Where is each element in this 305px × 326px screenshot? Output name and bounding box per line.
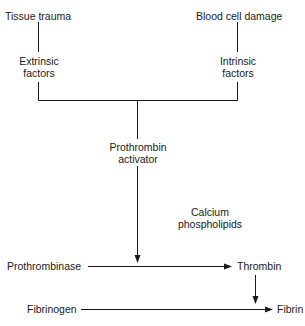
activator-line-1: Prothrombin — [102, 141, 174, 153]
node-extrinsic-factors: Extrinsic factors — [15, 55, 63, 79]
node-blood-cell-damage: Blood cell damage — [196, 10, 282, 22]
intrinsic-line-2: factors — [214, 67, 262, 79]
node-tissue-trauma: Tissue trauma — [5, 10, 71, 22]
calcium-line-1: Calcium — [170, 206, 250, 218]
node-fibrin: Fibrin — [277, 303, 303, 315]
node-thrombin: Thrombin — [237, 260, 281, 272]
node-prothrombin-activator: Prothrombin activator — [102, 141, 174, 165]
extrinsic-line-2: factors — [15, 67, 63, 79]
node-fibrinogen: Fibrinogen — [27, 303, 77, 315]
calcium-line-2: phospholipids — [170, 218, 250, 230]
node-intrinsic-factors: Intrinsic factors — [214, 55, 262, 79]
activator-line-2: activator — [102, 153, 174, 165]
extrinsic-line-1: Extrinsic — [15, 55, 63, 67]
node-calcium-phospholipids: Calcium phospholipids — [170, 206, 250, 230]
intrinsic-line-1: Intrinsic — [214, 55, 262, 67]
node-prothrombinase: Prothrombinase — [7, 260, 81, 272]
